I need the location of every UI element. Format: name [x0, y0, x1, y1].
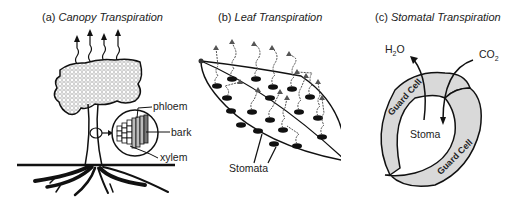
- co2-co: CO: [479, 48, 495, 60]
- label-h2o: H2O: [385, 43, 405, 57]
- h2o-h: H: [385, 43, 393, 55]
- label-co2: CO2: [479, 48, 499, 62]
- stoma-illustration: [0, 0, 511, 204]
- h2o-o: O: [397, 43, 405, 55]
- label-stoma: Stoma: [410, 128, 440, 140]
- co2-sub: 2: [495, 55, 499, 62]
- panel-stomatal-transpiration: (c) Stomatal Transpiration H2O CO2 Stoma…: [340, 0, 511, 204]
